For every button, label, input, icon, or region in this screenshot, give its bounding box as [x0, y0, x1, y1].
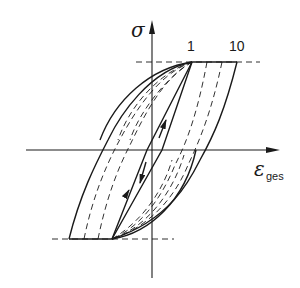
curve-label-10: 10: [229, 38, 245, 54]
up-arrow-icon: [159, 120, 166, 138]
x-axis-label-subscript: ges: [266, 170, 284, 182]
direction-arrows: [126, 120, 166, 195]
x-axis-label: ε: [254, 157, 265, 181]
y-axis-arrow-icon: [149, 20, 155, 34]
up-arrow-icon-2: [126, 190, 129, 195]
curve-label-1: 1: [187, 38, 195, 54]
y-axis-label: σ: [131, 18, 146, 42]
hysteresis-diagram: σ 1 10 ε ges: [0, 0, 300, 288]
x-axis-arrow-icon: [266, 147, 280, 153]
